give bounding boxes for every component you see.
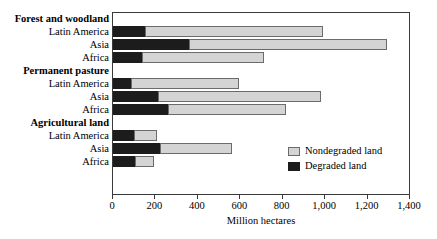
bar-segment-nondegraded xyxy=(135,156,154,167)
x-axis-tick xyxy=(367,195,368,199)
bar-segment-nondegraded xyxy=(134,130,156,141)
x-axis-tick-label: 1,000 xyxy=(312,200,336,212)
stacked-bar xyxy=(113,104,286,115)
x-axis-tick xyxy=(197,195,198,199)
bar-segment-nondegraded xyxy=(142,52,264,63)
bar-segment-degraded xyxy=(113,156,135,167)
bar-segment-degraded xyxy=(113,91,158,102)
bar-segment-nondegraded xyxy=(189,39,387,50)
bar-segment-degraded xyxy=(113,39,189,50)
x-axis-tick xyxy=(154,195,155,199)
x-axis-tick xyxy=(239,195,240,199)
x-axis-tick xyxy=(324,195,325,199)
stacked-bar xyxy=(113,130,157,141)
bar-row-label: Africa xyxy=(82,155,109,168)
x-axis-tick-label: 800 xyxy=(274,200,290,212)
legend-item-degraded: Degraded land xyxy=(288,159,418,173)
bar-segment-nondegraded xyxy=(160,143,232,154)
group-heading-row: Agricultural land xyxy=(0,116,437,129)
bar-segment-nondegraded xyxy=(131,78,239,89)
bar-segment-degraded xyxy=(113,143,160,154)
bar-row-label: Africa xyxy=(82,103,109,116)
chart-legend: Nondegraded landDegraded land xyxy=(288,144,418,174)
x-axis-tick-label: 1,200 xyxy=(355,200,379,212)
bar-segment-nondegraded xyxy=(145,26,323,37)
legend-label-nondegraded: Nondegraded land xyxy=(305,145,382,157)
bar-segment-nondegraded xyxy=(158,91,322,102)
bar-segment-degraded xyxy=(113,130,134,141)
bar-row-label: Asia xyxy=(90,142,109,155)
x-axis: Million hectares 02004006008001,0001,200… xyxy=(112,195,410,235)
bar-row-label: Asia xyxy=(90,38,109,51)
bar-row-label: Asia xyxy=(90,90,109,103)
group-label: Agricultural land xyxy=(31,116,109,129)
x-axis-title: Million hectares xyxy=(112,215,410,227)
legend-item-nondegraded: Nondegraded land xyxy=(288,144,418,158)
bar-row: Africa xyxy=(0,51,437,64)
stacked-bar xyxy=(113,52,264,63)
bar-segment-degraded xyxy=(113,104,168,115)
group-label: Forest and woodland xyxy=(15,12,109,25)
group-heading-row: Forest and woodland xyxy=(0,12,437,25)
bar-segment-degraded xyxy=(113,78,131,89)
x-axis-tick-label: 1,400 xyxy=(397,200,421,212)
bar-segment-degraded xyxy=(113,52,142,63)
legend-label-degraded: Degraded land xyxy=(305,160,367,172)
stacked-bar xyxy=(113,39,387,50)
x-axis-tick xyxy=(112,195,113,199)
x-axis-tick-label: 0 xyxy=(109,200,114,212)
stacked-bar xyxy=(113,156,154,167)
x-axis-tick xyxy=(282,195,283,199)
chart-root: Forest and woodlandLatin AmericaAsiaAfri… xyxy=(0,0,437,239)
bar-row-label: Latin America xyxy=(49,129,109,142)
bar-row: Africa xyxy=(0,103,437,116)
group-label: Permanent pasture xyxy=(23,64,109,77)
stacked-bar xyxy=(113,143,232,154)
bar-segment-nondegraded xyxy=(168,104,287,115)
bar-row: Asia xyxy=(0,90,437,103)
stacked-bar xyxy=(113,26,323,37)
bar-segment-degraded xyxy=(113,26,145,37)
bar-row-label: Latin America xyxy=(49,77,109,90)
legend-swatch-degraded xyxy=(288,162,300,171)
bar-row-label: Africa xyxy=(82,51,109,64)
bar-row: Asia xyxy=(0,38,437,51)
bar-row: Latin America xyxy=(0,25,437,38)
stacked-bar xyxy=(113,91,321,102)
stacked-bar xyxy=(113,78,239,89)
x-axis-tick-label: 400 xyxy=(189,200,205,212)
group-heading-row: Permanent pasture xyxy=(0,64,437,77)
x-axis-tick xyxy=(409,195,410,199)
bar-row: Latin America xyxy=(0,77,437,90)
bar-row-label: Latin America xyxy=(49,25,109,38)
bar-row: Latin America xyxy=(0,129,437,142)
x-axis-tick-label: 600 xyxy=(231,200,247,212)
x-axis-tick-label: 200 xyxy=(147,200,163,212)
legend-swatch-nondegraded xyxy=(288,147,300,156)
